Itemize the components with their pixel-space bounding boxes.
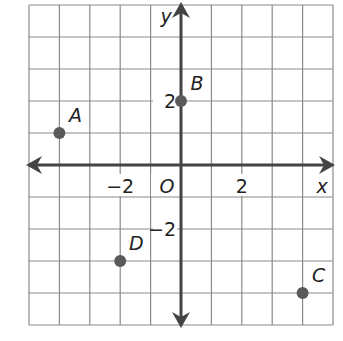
x-tick-label: −2 [106,175,134,197]
point-label-c: C [312,264,326,286]
axes [26,2,335,328]
point-label-d: D [129,232,144,254]
tick-labels: −222−2OxyABCD [67,5,328,286]
y-axis-label: y [159,5,172,27]
origin-label: O [160,175,175,197]
point-label-a: A [67,104,82,126]
point-b [175,95,187,107]
y-tick-label: 2 [164,90,176,112]
point-label-b: B [190,72,203,94]
coordinate-plane: −222−2OxyABCD [0,0,343,341]
x-axis-label: x [315,175,328,197]
point-c [297,287,309,299]
y-tick-label: −2 [148,218,176,240]
x-tick-label: 2 [236,175,248,197]
point-a [53,127,65,139]
point-d [114,255,126,267]
